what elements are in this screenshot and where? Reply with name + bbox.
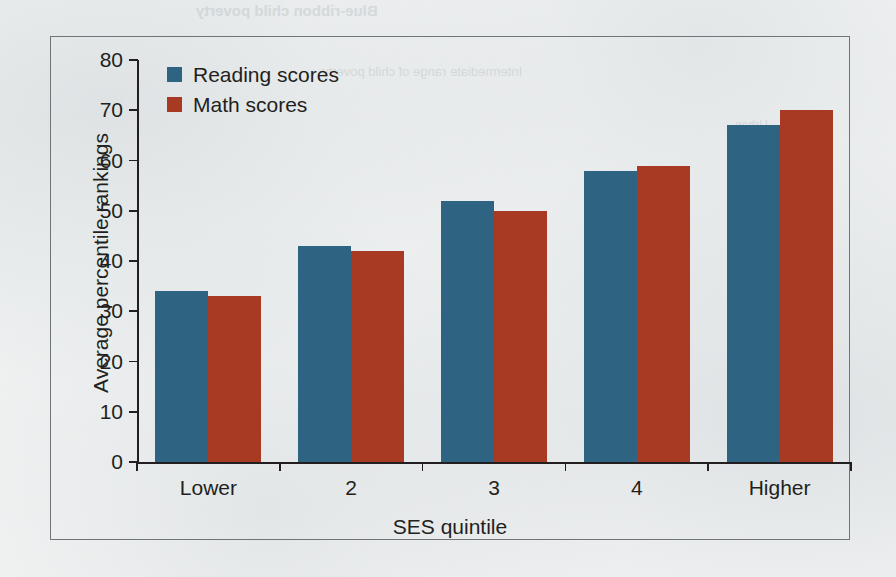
x-tick-label: Lower: [180, 477, 237, 498]
x-tick-label: Higher: [749, 477, 811, 498]
bar-reading-scores-higher: [727, 125, 780, 462]
bar-reading-scores-lower: [155, 291, 208, 462]
chart-legend: Reading scoresMath scores: [167, 59, 339, 119]
bar-math-scores-lower: [208, 296, 261, 462]
bar-math-scores-3: [494, 211, 547, 462]
bar-reading-scores-2: [298, 246, 351, 462]
x-tick-label: 3: [488, 477, 500, 498]
bar-math-scores-higher: [780, 110, 833, 462]
legend-swatch-icon: [167, 67, 182, 82]
bar-math-scores-4: [637, 166, 690, 462]
x-axis-title: SES quintile: [51, 515, 849, 539]
y-tick-mark: [129, 411, 138, 413]
x-axis-line: [137, 462, 851, 464]
y-tick-mark: [129, 160, 138, 162]
y-tick-mark: [129, 260, 138, 262]
y-tick-mark: [129, 59, 138, 61]
y-tick-mark: [129, 310, 138, 312]
legend-item: Math scores: [167, 89, 339, 119]
legend-label: Math scores: [193, 94, 307, 115]
y-tick-mark: [129, 461, 138, 463]
legend-label: Reading scores: [193, 64, 339, 85]
bar-reading-scores-4: [584, 171, 637, 462]
bar-reading-scores-3: [441, 201, 494, 462]
bleed-through-text-1: Blue-ribbon child poverty: [196, 2, 378, 19]
x-tick-label: 4: [631, 477, 643, 498]
y-tick-mark: [129, 210, 138, 212]
bar-math-scores-2: [351, 251, 404, 462]
x-tick-label: 2: [345, 477, 357, 498]
y-tick-mark: [129, 361, 138, 363]
chart-figure-frame: 01020304050607080 Lower234Higher SES qui…: [50, 36, 850, 540]
legend-swatch-icon: [167, 97, 182, 112]
legend-item: Reading scores: [167, 59, 339, 89]
y-axis-title: Average percentile rankings: [89, 53, 113, 473]
plot-area: 01020304050607080 Lower234Higher SES qui…: [51, 37, 849, 539]
y-tick-mark: [129, 109, 138, 111]
